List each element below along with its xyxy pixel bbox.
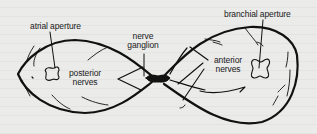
- label-posterior-nerves-line2: nerves: [63, 78, 107, 87]
- anterior-lobe-outline: [164, 27, 298, 123]
- posterior-nerve-v: [118, 67, 143, 90]
- anterior-nerve-mid: [178, 63, 203, 84]
- diagram-canvas: atrial aperture branchial aperture nerve…: [0, 0, 317, 134]
- atrial-aperture-pointer: [50, 32, 55, 68]
- label-anterior-nerves-line2: nerves: [209, 65, 247, 74]
- label-anterior-nerves: anterior nerves: [209, 56, 247, 74]
- atrial-aperture-shape: [45, 67, 59, 81]
- branchial-aperture-shape: [251, 59, 269, 78]
- label-branchial-aperture: branchial aperture: [224, 10, 291, 19]
- label-nerve-ganglion-line2: ganglion: [124, 41, 162, 50]
- label-posterior-nerves: posterior nerves: [63, 69, 107, 87]
- ganglion-body: [146, 75, 170, 82]
- label-nerve-ganglion: nerve ganglion: [124, 32, 162, 50]
- label-atrial-aperture: atrial aperture: [30, 22, 81, 31]
